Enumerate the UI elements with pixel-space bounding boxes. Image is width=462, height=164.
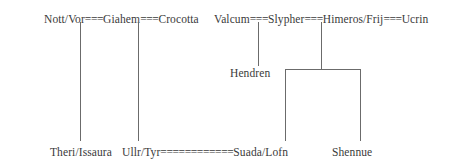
descent-line-crocotta-to-ullr <box>138 22 139 141</box>
person-nott-vor: Nott/Vor <box>44 13 85 25</box>
descent-line-himeros-to-bracket <box>321 22 322 70</box>
sibling-bracket-left-arm <box>285 69 286 141</box>
family-tree-diagram: Nott/Vor===Giahem===Crocotta Valcum===Sl… <box>0 0 462 164</box>
bottom-union-line: Ullr/Tyr============Suada/Lofn <box>122 145 288 159</box>
union-connector-2: === <box>140 13 158 25</box>
person-shennue: Shennue <box>332 145 372 159</box>
person-slypher: Slypher <box>268 13 304 25</box>
person-hendren: Hendren <box>230 66 270 80</box>
person-suada-lofn: Suada/Lofn <box>233 146 288 158</box>
top-left-union-line: Nott/Vor===Giahem===Crocotta <box>44 12 199 26</box>
union-connector-long: ============ <box>160 146 233 158</box>
descent-line-giahem-to-theri <box>80 22 81 141</box>
person-crocotta: Crocotta <box>158 13 198 25</box>
union-connector-4: === <box>304 13 322 25</box>
person-himeros-frij: Himeros/Frij <box>323 13 384 25</box>
sibling-bracket-right-arm <box>360 69 361 141</box>
union-connector-5: === <box>383 13 401 25</box>
person-ucrin: Ucrin <box>402 13 429 25</box>
person-giahem: Giahem <box>103 13 140 25</box>
union-connector-1: === <box>85 13 103 25</box>
descent-line-slypher-to-hendren <box>258 22 259 66</box>
person-ullr-tyr: Ullr/Tyr <box>122 146 160 158</box>
person-valcum: Valcum <box>214 13 250 25</box>
sibling-bracket-bar <box>285 69 361 70</box>
person-theri-issaura: Theri/Issaura <box>50 145 112 159</box>
